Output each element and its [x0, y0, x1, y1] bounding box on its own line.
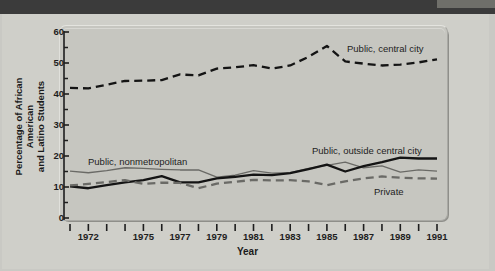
y-tick-label-0: 0 — [42, 212, 64, 223]
x-axis-title: Year — [0, 246, 495, 257]
x-tick-label-1979: 1979 — [203, 231, 231, 242]
x-axis-tick-labels: 1972197519771979198119831985198719891991 — [0, 231, 495, 243]
x-tick-label-1981: 1981 — [240, 231, 268, 242]
series-label-public-central-city: Public, central city — [347, 43, 424, 54]
x-tick-label-1977: 1977 — [166, 231, 194, 242]
y-tick-label-50: 50 — [42, 57, 64, 68]
y-tick-label-40: 40 — [42, 88, 64, 99]
x-tick-label-1991: 1991 — [423, 231, 451, 242]
x-tick-label-1985: 1985 — [313, 231, 341, 242]
x-tick-label-1989: 1989 — [386, 231, 414, 242]
y-tick-label-60: 60 — [42, 26, 64, 37]
x-tick-label-1983: 1983 — [276, 231, 304, 242]
series-label-public-nonmetropolitan: Public, nonmetropolitan — [88, 156, 187, 167]
x-tick-label-1987: 1987 — [350, 231, 378, 242]
series-label-public-outside-central-city: Public, outside central city — [312, 145, 422, 156]
series-label-private: Private — [374, 186, 404, 197]
page-root: Percentage of African American and Latin… — [0, 0, 495, 271]
x-tick-label-1975: 1975 — [129, 231, 157, 242]
x-tick-label-1972: 1972 — [74, 231, 102, 242]
y-tick-label-10: 10 — [42, 181, 64, 192]
y-tick-label-30: 30 — [42, 119, 64, 130]
y-tick-label-20: 20 — [42, 150, 64, 161]
